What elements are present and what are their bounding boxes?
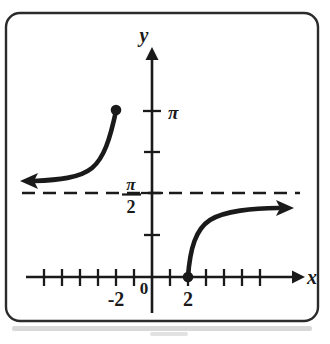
right-branch-endpoint-dot [183,272,194,283]
x-tick-label--2: -2 [108,288,125,310]
y-tick-label-pi: π [168,102,179,123]
origin-label: 0 [140,279,149,298]
asymptote-label-numerator: π [126,175,136,194]
y-axis-label: y [138,24,149,47]
x-axis-label: x [306,266,317,288]
figure-border [6,13,318,321]
asymptote-label-denominator: 2 [127,197,136,217]
frame-shadow [12,326,312,336]
math-graph-svg: y x π π 2 0 -2 2 [0,0,330,344]
figure-root: y x π π 2 0 -2 2 [0,0,330,344]
x-tick-label-2: 2 [183,288,193,310]
left-branch-endpoint-dot [111,105,122,116]
